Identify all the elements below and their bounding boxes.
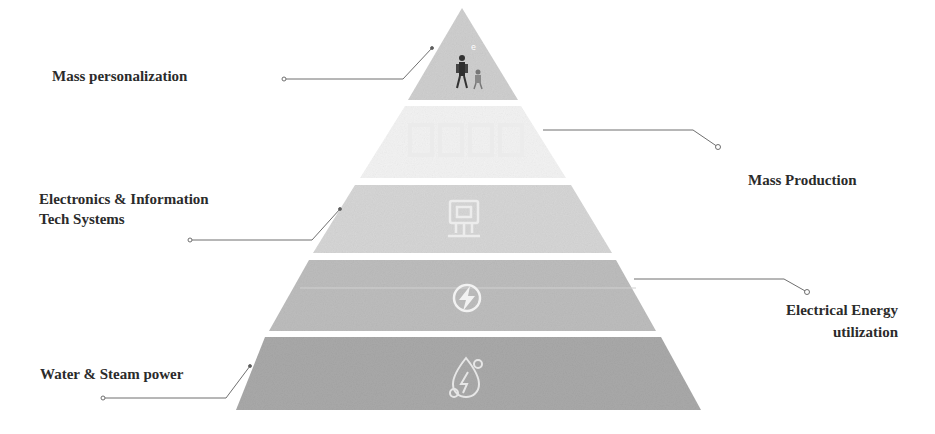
label-mass-production: Mass Production <box>748 170 856 190</box>
connector-mass-production <box>543 130 721 150</box>
connector-electronics <box>188 208 342 243</box>
level-shape <box>236 337 701 410</box>
pyramid-level-water-steam <box>236 337 701 410</box>
connector-electrical-energy <box>634 279 810 295</box>
pyramid-level-mass-production <box>360 106 566 178</box>
label-electrical-energy-line-1: Electrical Energy <box>786 300 898 320</box>
level-shape <box>313 185 612 253</box>
pyramid-level-electronics-information-tech <box>313 185 612 253</box>
pyramid-level-mass-personalization: e <box>408 8 518 100</box>
label-electronics-line-2: Tech Systems <box>39 209 125 229</box>
level-shape <box>408 8 518 100</box>
label-mass-personalization: Mass personalization <box>52 66 187 86</box>
label-electronics-line-1: Electronics & Information <box>39 189 209 209</box>
label-water-steam: Water & Steam power <box>40 364 183 384</box>
level-shape <box>269 260 656 331</box>
connector-mass-personalization <box>282 47 434 82</box>
pyramid-level-electrical-energy <box>269 260 656 331</box>
svg-text:e: e <box>471 43 476 52</box>
label-electrical-energy-line-2: utilization <box>833 322 898 342</box>
